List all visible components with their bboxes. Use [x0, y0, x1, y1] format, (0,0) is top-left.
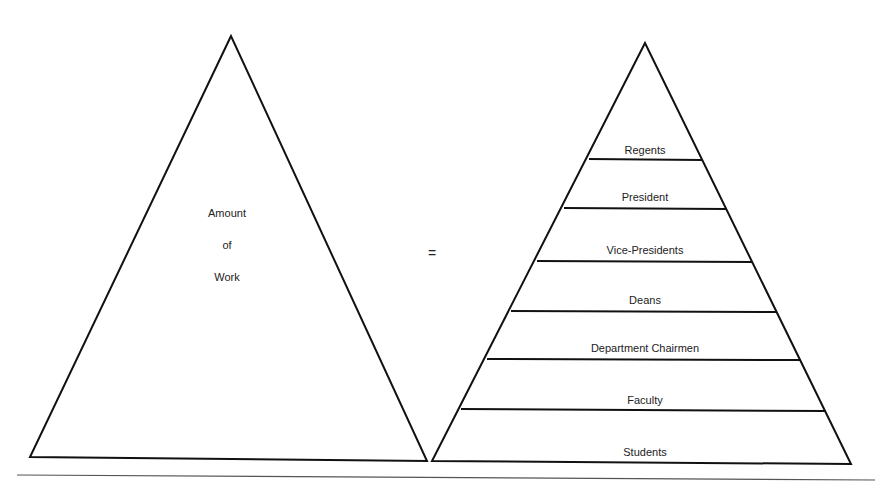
bottom-rule — [17, 475, 875, 480]
left-label-line-3: Work — [214, 271, 240, 283]
divider-1 — [589, 159, 702, 160]
left-label-line-2: of — [222, 239, 232, 251]
divider-3 — [537, 261, 752, 262]
level-deans: Deans — [629, 294, 661, 306]
level-president: President — [622, 191, 668, 203]
level-faculty: Faculty — [627, 394, 663, 406]
divider-4 — [511, 311, 777, 312]
hierarchy-diagram: Amount of Work = Regents President Vice-… — [0, 0, 883, 496]
left-label-line-1: Amount — [208, 207, 246, 219]
divider-6 — [461, 409, 826, 411]
level-vice-presidents: Vice-Presidents — [607, 244, 684, 256]
equals-sign: = — [428, 245, 436, 261]
divider-5 — [487, 359, 801, 360]
level-students: Students — [623, 446, 667, 458]
level-regents: Regents — [625, 144, 666, 156]
divider-2 — [564, 208, 726, 209]
level-department-chairmen: Department Chairmen — [591, 342, 699, 354]
